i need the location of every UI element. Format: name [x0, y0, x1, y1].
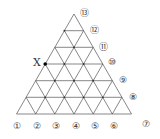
- right-label-10: ⑩: [108, 57, 116, 67]
- right-label-13: ⑬: [80, 6, 89, 19]
- bottom-label-6: ⑥: [110, 121, 118, 131]
- right-label-9: ⑨: [119, 75, 127, 85]
- triangle-grid: [0, 0, 160, 139]
- right-label-11: ⑪: [99, 40, 108, 53]
- point-x-marker: [43, 62, 47, 66]
- bottom-label-2: ②: [33, 121, 41, 131]
- bottom-label-4: ④: [72, 121, 80, 131]
- point-x-label: X: [33, 56, 41, 69]
- bottom-label-1: ①: [13, 121, 21, 131]
- bottom-label-5: ⑤: [91, 121, 99, 131]
- right-label-8: ⑧: [129, 92, 137, 102]
- right-label-7: ⑦: [142, 119, 150, 129]
- bottom-label-3: ③: [52, 121, 60, 131]
- right-label-12: ⑫: [90, 23, 99, 36]
